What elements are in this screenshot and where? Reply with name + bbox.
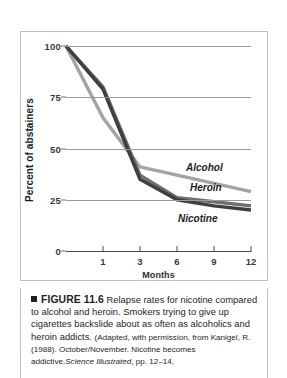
series-label-heroin: Heroin <box>190 182 222 193</box>
x-tick-mark-6 <box>177 246 178 252</box>
x-tick-mark-12 <box>251 246 252 252</box>
x-tick-label-9: 9 <box>211 256 216 267</box>
plot-area: 1007550250136912MonthsAlcoholHeroinNicot… <box>66 46 251 251</box>
figure-number: FIGURE 11.6 <box>41 294 104 305</box>
series-label-alcohol: Alcohol <box>186 161 223 172</box>
caption-source-title: Science Illustrated <box>65 357 131 366</box>
x-tick-mark-3 <box>140 246 141 252</box>
gridline-50 <box>66 149 251 150</box>
caption-bullet-icon <box>31 296 37 302</box>
figure-container: Percent of abstainers 1007550250136912Mo… <box>0 0 287 378</box>
y-tick-mark-50 <box>61 148 66 149</box>
caption-text: FIGURE 11.6 Relapse rates for nicotine c… <box>31 294 259 367</box>
x-axis-line <box>66 251 251 252</box>
y-tick-label-100: 100 <box>45 41 61 52</box>
x-tick-label-6: 6 <box>174 256 179 267</box>
y-tick-label-75: 75 <box>50 92 61 103</box>
series-line-alcohol <box>66 46 251 192</box>
gridline-100 <box>66 46 251 47</box>
x-tick-mark-9 <box>214 246 215 252</box>
y-tick-label-25: 25 <box>50 194 61 205</box>
series-label-nicotine: Nicotine <box>178 213 217 224</box>
figure-caption: FIGURE 11.6 Relapse rates for nicotine c… <box>20 288 268 378</box>
y-tick-mark-25 <box>61 199 66 200</box>
x-tick-label-12: 12 <box>246 256 257 267</box>
caption-source-tail: , pp. 12–14, <box>131 357 174 366</box>
x-axis-title: Months <box>66 270 251 280</box>
chart-panel: Percent of abstainers 1007550250136912Mo… <box>20 31 268 281</box>
y-axis-title: Percent of abstainers <box>24 98 35 202</box>
y-tick-label-0: 0 <box>56 246 61 257</box>
x-tick-label-1: 1 <box>100 256 105 267</box>
gridline-25 <box>66 200 251 201</box>
y-tick-mark-100 <box>61 46 66 47</box>
y-tick-mark-75 <box>61 97 66 98</box>
series-line-heroin <box>66 46 251 206</box>
x-tick-label-3: 3 <box>137 256 142 267</box>
gridline-75 <box>66 97 251 98</box>
x-tick-mark-1 <box>103 246 104 252</box>
y-tick-label-50: 50 <box>50 143 61 154</box>
